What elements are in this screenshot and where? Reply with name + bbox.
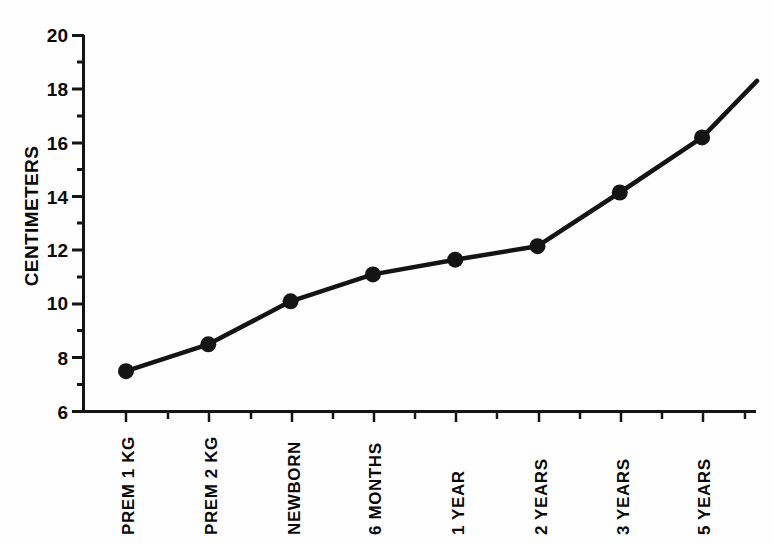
data-point-6 bbox=[612, 185, 628, 201]
x-axis-ticks bbox=[126, 412, 745, 422]
data-point-3 bbox=[365, 266, 381, 282]
data-point-markers bbox=[118, 129, 710, 379]
plot-area bbox=[0, 0, 774, 545]
data-series-line bbox=[126, 81, 757, 371]
data-point-2 bbox=[283, 293, 299, 309]
data-point-4 bbox=[447, 252, 463, 268]
data-point-1 bbox=[200, 336, 216, 352]
data-point-7 bbox=[694, 129, 710, 145]
data-point-0 bbox=[118, 363, 134, 379]
data-point-5 bbox=[530, 238, 546, 254]
chart-container: CENTIMETERS 20 18 16 14 12 10 8 6 PREM 1… bbox=[0, 0, 774, 545]
